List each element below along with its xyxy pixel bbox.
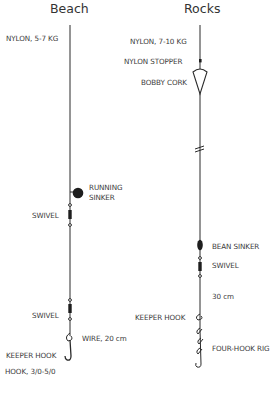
rocks-keeper-hook-label: KEEPER HOOK	[135, 313, 185, 322]
beach-swivel-2	[68, 304, 71, 313]
beach-swivel-2-label: SWIVEL	[32, 311, 59, 320]
bobby-cork-label: BOBBY CORK	[141, 78, 187, 87]
beach-keeper-hook	[66, 333, 72, 341]
beach-nylon-label: NYLON, 5-7 KG	[6, 34, 58, 43]
beach-swivel-1	[68, 210, 71, 219]
rocks-nylon-label: NYLON, 7-10 KG	[130, 37, 187, 46]
beach-main-hook	[65, 340, 71, 360]
rocks-keeper-hook	[196, 314, 202, 320]
rig-hook-1	[197, 328, 202, 334]
bean-sinker	[197, 240, 203, 250]
wire-label: WIRE, 20 cm	[82, 334, 127, 343]
running-sinker	[73, 188, 84, 199]
bobby-cork	[193, 69, 207, 94]
beach-keeper-hook-label: KEEPER HOOK	[6, 351, 56, 360]
nylon-stopper	[199, 59, 202, 62]
four-hook-rig-label: FOUR-HOOK RIG	[212, 344, 269, 353]
running-sinker-label-2: SINKER	[89, 193, 115, 202]
hook-size-label: HOOK, 3/0-5/0	[5, 367, 55, 376]
bean-sinker-label: BEAN SINKER	[212, 242, 259, 251]
rig-hook-3	[197, 348, 202, 354]
running-sinker-label: RUNNING	[89, 183, 122, 192]
rocks-swivel	[198, 262, 201, 271]
nylon-stopper-label: NYLON STOPPER	[124, 57, 182, 66]
beach-swivel-1-label: SWIVEL	[32, 211, 59, 220]
length-label: 30 cm	[212, 292, 234, 301]
rocks-swivel-label: SWIVEL	[212, 261, 239, 270]
